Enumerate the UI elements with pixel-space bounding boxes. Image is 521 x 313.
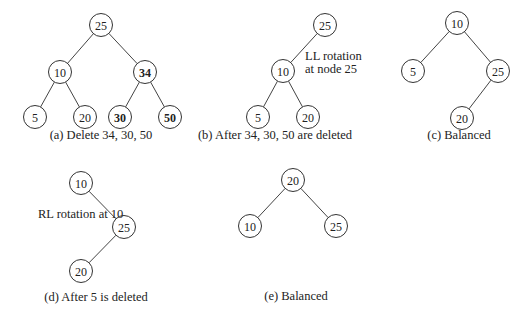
tree-edge-a — [41, 82, 55, 107]
svg-text:25: 25 — [319, 19, 331, 33]
tree-node-e-20: 20 — [282, 169, 305, 192]
tree-edge-a — [66, 82, 80, 107]
caption-c: (c) Balanced — [427, 128, 491, 143]
tree-edge-a — [109, 33, 137, 63]
tree-edge-b — [288, 81, 302, 107]
tree-edge-a — [151, 82, 165, 107]
tree-node-b-5: 5 — [247, 106, 270, 129]
tree-edge-e — [258, 188, 285, 217]
tree-node-a-25: 25 — [90, 14, 113, 37]
svg-text:25: 25 — [118, 221, 130, 235]
avl-deletion-diagram: 251034520305025105201052520102520201025 — [0, 0, 521, 313]
tree-node-b-20: 20 — [297, 106, 320, 129]
svg-text:5: 5 — [410, 65, 416, 79]
note-ll-rotation: LL rotation at node 25 — [305, 50, 362, 76]
svg-text:5: 5 — [255, 111, 261, 125]
svg-text:10: 10 — [451, 17, 463, 31]
caption-a: (a) Delete 34, 30, 50 — [50, 128, 153, 143]
svg-text:25: 25 — [330, 220, 342, 234]
tree-edge-c — [464, 32, 490, 63]
note-rl-rotation: RL rotation at 10 — [38, 208, 123, 221]
note-ll-line2: at node 25 — [305, 63, 362, 76]
tree-node-c-5: 5 — [402, 60, 425, 83]
svg-text:20: 20 — [302, 111, 314, 125]
caption-e: (e) Balanced — [264, 289, 328, 304]
svg-text:20: 20 — [79, 111, 91, 125]
tree-node-b-25: 25 — [314, 14, 337, 37]
svg-text:10: 10 — [277, 65, 289, 79]
tree-edge-e — [301, 188, 328, 217]
svg-text:25: 25 — [492, 65, 504, 79]
tree-node-c-25: 25 — [487, 60, 510, 83]
tree-node-a-34: 34 — [134, 61, 157, 84]
svg-text:25: 25 — [95, 19, 107, 33]
svg-text:5: 5 — [32, 111, 38, 125]
tree-edge-c — [469, 80, 491, 109]
tree-node-c-20: 20 — [451, 107, 474, 130]
svg-text:20: 20 — [287, 174, 299, 188]
svg-text:10: 10 — [75, 177, 87, 191]
tree-edge-a — [126, 82, 140, 107]
svg-text:20: 20 — [456, 112, 468, 126]
tree-node-e-10: 10 — [239, 215, 262, 238]
svg-text:10: 10 — [54, 66, 66, 80]
tree-node-a-50: 50 — [159, 106, 182, 129]
tree-node-c-10: 10 — [446, 12, 469, 35]
tree-node-d-10: 10 — [70, 172, 93, 195]
tree-node-a-10: 10 — [49, 61, 72, 84]
caption-b: (b) After 34, 30, 50 are deleted — [198, 128, 352, 143]
svg-text:50: 50 — [164, 111, 176, 125]
tree-edge-c — [421, 31, 449, 62]
tree-node-a-5: 5 — [24, 106, 47, 129]
tree-edge-b — [263, 81, 277, 107]
tree-node-e-25: 25 — [325, 215, 348, 238]
svg-text:34: 34 — [139, 66, 151, 80]
svg-text:30: 30 — [114, 111, 126, 125]
svg-text:20: 20 — [75, 265, 87, 279]
tree-node-b-10: 10 — [272, 60, 295, 83]
tree-node-a-20: 20 — [74, 106, 97, 129]
tree-edge-d — [89, 235, 116, 263]
tree-node-a-30: 30 — [109, 106, 132, 129]
tree-node-d-20: 20 — [70, 260, 93, 283]
svg-text:10: 10 — [244, 220, 256, 234]
tree-nodes: 251034520305025105201052520102520201025 — [24, 12, 510, 283]
caption-d: (d) After 5 is deleted — [44, 290, 147, 305]
tree-edge-a — [68, 34, 94, 64]
